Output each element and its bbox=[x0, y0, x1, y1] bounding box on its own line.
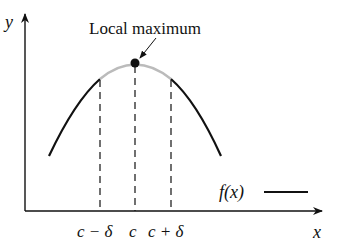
y-axis-label: y bbox=[3, 12, 13, 32]
local-max-point bbox=[131, 59, 140, 68]
annotation-arrow bbox=[140, 38, 156, 58]
x-axis-label: x bbox=[312, 222, 321, 242]
local-maximum-diagram: Local maximum y x c − δ c c + δ f(x) bbox=[0, 0, 338, 247]
curve-left bbox=[49, 79, 100, 156]
tick-label-c-plus-delta: c + δ bbox=[148, 222, 185, 241]
legend-label: f(x) bbox=[219, 182, 244, 203]
tick-label-c-minus-delta: c − δ bbox=[77, 222, 114, 241]
annotation-label: Local maximum bbox=[89, 19, 201, 38]
tick-label-c: c bbox=[129, 222, 137, 241]
curve-right bbox=[171, 79, 221, 156]
